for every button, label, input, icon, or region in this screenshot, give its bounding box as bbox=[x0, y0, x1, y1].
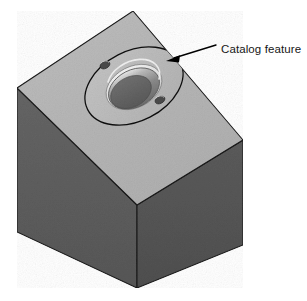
leader-line bbox=[166, 45, 216, 63]
catalog-feature-label: Catalog feature bbox=[221, 42, 301, 56]
figure-root: Catalog feature bbox=[0, 0, 307, 301]
